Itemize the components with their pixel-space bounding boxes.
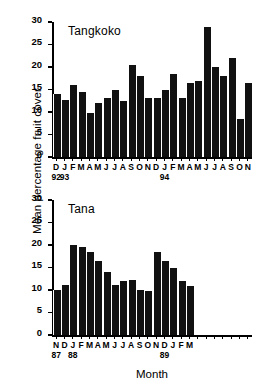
x-tick <box>56 335 57 339</box>
bar <box>178 98 186 157</box>
x-tick <box>139 157 140 161</box>
month-label: M <box>194 162 201 172</box>
month-label: A <box>186 162 192 172</box>
month-label: O <box>136 162 143 172</box>
bar <box>128 65 136 157</box>
month-label: D <box>161 340 167 350</box>
bar <box>219 76 227 157</box>
x-tick <box>231 157 232 161</box>
x-tick <box>214 157 215 161</box>
x-tick <box>172 157 173 161</box>
month-label: D <box>61 340 67 350</box>
plot-area-tangkoko: 051015202530 <box>52 22 252 157</box>
bar <box>69 245 77 335</box>
bar <box>103 272 111 335</box>
chart-panel-tangkoko: Tangkoko 051015202530 DJFMAMJJASONDJFMAM… <box>0 0 263 190</box>
month-label: J <box>204 162 209 172</box>
x-tick <box>64 335 65 339</box>
year-label: 87 <box>51 350 60 360</box>
x-tick <box>189 335 190 339</box>
bar <box>153 98 161 157</box>
month-label: F <box>79 340 84 350</box>
x-tick <box>239 157 240 161</box>
x-tick <box>239 335 240 339</box>
x-tick <box>97 335 98 339</box>
year-label: 88 <box>68 350 77 360</box>
x-tick <box>89 157 90 161</box>
bar <box>244 83 252 157</box>
bar <box>86 113 94 157</box>
y-tick-label: 0 <box>37 150 42 160</box>
y-tick-label: 15 <box>31 260 42 270</box>
x-tick <box>181 335 182 339</box>
x-tick <box>97 157 98 161</box>
x-tick <box>147 157 148 161</box>
bar <box>53 290 61 335</box>
x-tick <box>81 335 82 339</box>
month-label: J <box>162 162 167 172</box>
bar <box>61 285 69 335</box>
month-label: O <box>236 162 243 172</box>
month-label: N <box>53 340 59 350</box>
month-label: J <box>104 162 109 172</box>
bar-series-tana <box>52 200 252 335</box>
bar <box>78 92 86 157</box>
month-label: N <box>145 162 151 172</box>
y-tick-label: 30 <box>31 193 42 203</box>
month-label: M <box>78 162 85 172</box>
x-tick <box>247 335 248 339</box>
bar <box>136 76 144 157</box>
bar <box>178 281 186 335</box>
bar <box>111 285 119 335</box>
month-label: S <box>128 162 134 172</box>
x-tick <box>247 157 248 161</box>
x-tick <box>222 157 223 161</box>
x-axis-year-labels: 878889 <box>52 350 252 362</box>
x-tick <box>206 157 207 161</box>
x-tick <box>122 335 123 339</box>
month-label: N <box>153 340 159 350</box>
x-tick <box>106 157 107 161</box>
month-label: M <box>186 340 193 350</box>
x-tick <box>131 335 132 339</box>
month-label: M <box>94 162 101 172</box>
bar <box>161 90 169 157</box>
x-tick <box>231 335 232 339</box>
x-tick <box>172 335 173 339</box>
x-tick <box>106 335 107 339</box>
month-label: M <box>178 162 185 172</box>
x-tick <box>131 157 132 161</box>
x-tick <box>214 335 215 339</box>
x-tick <box>114 335 115 339</box>
month-label: M <box>86 340 93 350</box>
bar <box>86 252 94 335</box>
bar <box>94 103 102 157</box>
bar <box>103 98 111 157</box>
month-label: M <box>103 340 110 350</box>
year-label: 89 <box>160 350 169 360</box>
y-tick-label: 15 <box>31 82 42 92</box>
y-tick-label: 5 <box>37 127 42 137</box>
x-tick <box>206 335 207 339</box>
bar <box>169 268 177 335</box>
bar <box>119 101 127 157</box>
month-label: A <box>95 340 101 350</box>
bar <box>111 90 119 157</box>
x-tick <box>89 335 90 339</box>
month-label: S <box>137 340 143 350</box>
x-tick <box>72 335 73 339</box>
x-tick <box>222 335 223 339</box>
x-tick <box>122 157 123 161</box>
bar <box>211 67 219 157</box>
y-tick-label: 25 <box>31 215 42 225</box>
bar <box>144 291 152 335</box>
x-tick <box>156 157 157 161</box>
bar <box>144 98 152 157</box>
bar <box>203 27 211 158</box>
x-tick <box>81 157 82 161</box>
x-axis-year-labels: 929394 <box>52 172 252 184</box>
y-tick-label: 0 <box>37 328 42 338</box>
month-label: O <box>145 340 152 350</box>
month-label: F <box>70 162 75 172</box>
x-tick <box>189 157 190 161</box>
